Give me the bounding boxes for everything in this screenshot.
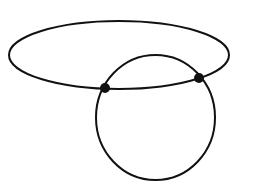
intersection-point-left (100, 83, 110, 93)
diagram-canvas (0, 0, 254, 196)
intersection-point-right (194, 73, 204, 83)
